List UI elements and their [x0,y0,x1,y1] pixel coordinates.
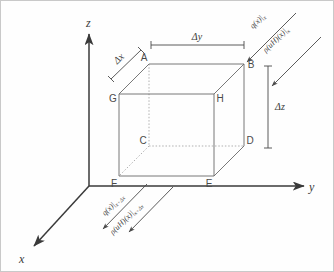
vertex-label-g: G [109,93,117,104]
vertex-label-d: D [246,135,253,146]
cube-hidden-edges [119,64,244,176]
axis-label-y: y [308,180,315,194]
dimension-dz: Δz [264,66,285,148]
vertex-label-a: A [141,52,148,63]
dimension-label-dx: Δx [110,51,126,67]
cube-visible-edges [119,64,244,176]
dimension-dx: Δx [108,47,144,82]
vertex-label-f: F [111,178,117,189]
diagram-frame: z y x A B C [0,0,334,272]
flux-in-enthalpy-label: ρ(uH)(x)|x [260,25,291,56]
diagram-canvas: z y x A B C [1,1,334,272]
vertex-label-h: H [216,93,223,104]
vertex-label-c: C [139,135,146,146]
vertex-label-e: E [206,178,213,189]
dimension-dy: Δy [151,31,244,49]
axis-label-z: z [85,16,91,30]
axis-x [34,186,89,246]
dimension-label-dz: Δz [274,101,285,112]
axis-label-x: x [18,252,25,266]
flux-in-heat-label: q(x)|x [248,11,268,31]
dimension-label-dy: Δy [191,31,203,42]
